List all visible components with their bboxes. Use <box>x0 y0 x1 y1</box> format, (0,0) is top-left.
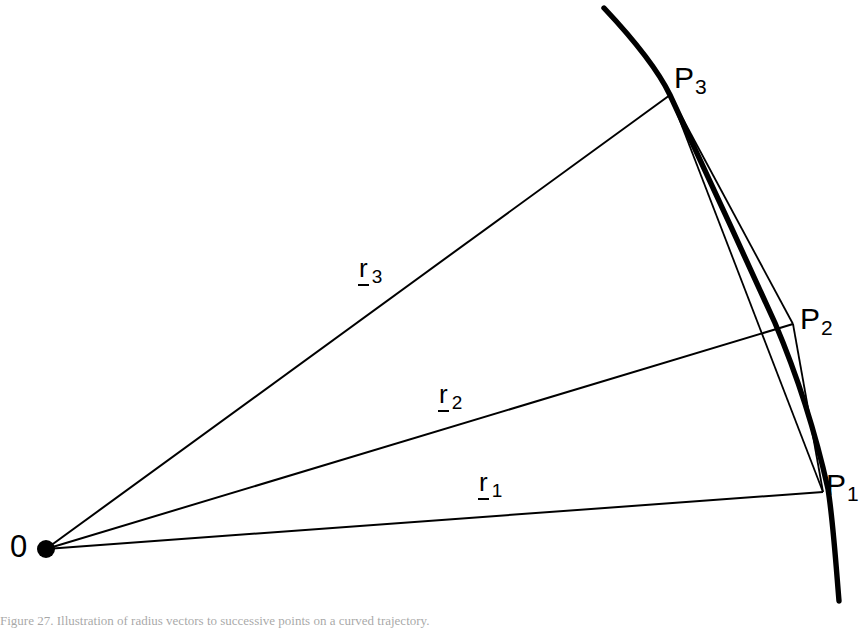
point-label-p2-subscript: 2 <box>820 316 833 339</box>
point-label-p1-subscript: 1 <box>846 482 859 505</box>
point-label-p1: P1 <box>826 470 859 504</box>
vector-label-r2-base: r <box>438 379 449 412</box>
point-label-p2-base: P <box>800 302 820 335</box>
origin-label: 0 <box>10 531 27 562</box>
point-label-p2: P2 <box>800 304 833 338</box>
vector-label-r1-subscript: 1 <box>489 480 503 501</box>
point-label-p3-subscript: 3 <box>694 75 707 98</box>
vector-label-r3-subscript: 3 <box>369 266 383 287</box>
radius-line-r3 <box>46 95 670 549</box>
vector-label-r2: r2 <box>438 381 462 412</box>
vector-label-r2-subscript: 2 <box>449 392 463 413</box>
vector-label-r3: r3 <box>358 255 382 286</box>
chord-p3-p1 <box>670 95 823 492</box>
radius-line-r2 <box>46 324 793 549</box>
figure-caption: Figure 27. Illustration of radius vector… <box>0 613 865 629</box>
figure-container: 0 P3 P2 P1 r3 r2 r1 Figure 27. Illustrat… <box>0 0 865 629</box>
vector-label-r1-base: r <box>478 467 489 500</box>
vector-diagram <box>0 0 865 629</box>
origin-dot <box>37 540 55 558</box>
vector-label-r1: r1 <box>478 469 502 500</box>
radius-line-r1 <box>46 492 823 549</box>
chord-p2-p1 <box>793 324 823 492</box>
point-label-p3-base: P <box>674 61 694 94</box>
vector-label-r3-base: r <box>358 253 369 286</box>
point-label-p1-base: P <box>826 468 846 501</box>
chord-p3-p2 <box>670 95 793 324</box>
point-label-p3: P3 <box>674 63 707 97</box>
